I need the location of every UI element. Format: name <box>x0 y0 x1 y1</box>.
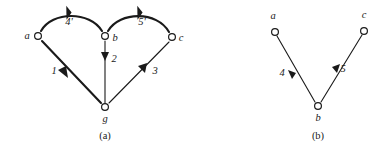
graph-diagram-svg: a b c g 4' 5' 1 2 3 (a) a <box>0 0 388 152</box>
edge-label-g-c: 3 <box>151 65 157 76</box>
node-label-b-panel-a: b <box>112 32 117 43</box>
edge-label-b-g: 2 <box>111 53 117 64</box>
node-label-g-panel-a: g <box>102 113 107 124</box>
panel-b-group: a c b 4 5 (b) <box>270 9 367 142</box>
node-a-panel-b[interactable] <box>272 29 279 36</box>
figure-container: a b c g 4' 5' 1 2 3 (a) a <box>0 0 388 152</box>
node-c-panel-a[interactable] <box>169 34 176 41</box>
node-label-a-panel-b: a <box>270 10 275 21</box>
node-a-panel-a[interactable] <box>35 33 42 40</box>
node-g-panel-a[interactable] <box>102 104 109 111</box>
node-label-c-panel-a: c <box>179 32 184 43</box>
arrowhead-a-to-b-panel-b <box>288 70 296 79</box>
node-b-panel-b[interactable] <box>315 103 322 110</box>
node-c-panel-b[interactable] <box>361 28 368 35</box>
edge-label-a-g: 1 <box>51 65 56 76</box>
edge-label-b-c-arc: 5' <box>138 16 146 27</box>
panel-a-group: a b c g 4' 5' 1 2 3 (a) <box>24 6 183 142</box>
edge-label-a-b-arc: 4' <box>65 16 73 27</box>
arrowhead-b-to-g <box>101 52 109 61</box>
caption-panel-a: (a) <box>99 130 111 142</box>
node-label-c-panel-b: c <box>362 9 367 20</box>
caption-panel-b: (b) <box>312 130 325 142</box>
edge-g-to-c <box>109 42 169 103</box>
node-label-b-panel-b: b <box>315 112 320 123</box>
edge-label-b-c-panel-b: 5 <box>340 63 345 74</box>
node-label-a-panel-a: a <box>24 30 29 41</box>
edge-label-a-b-panel-b: 4 <box>279 67 285 78</box>
node-b-panel-a[interactable] <box>102 33 109 40</box>
arrowhead-b-to-c-panel-b <box>332 64 340 73</box>
